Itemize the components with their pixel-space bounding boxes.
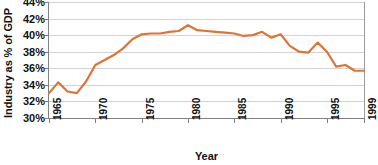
x-axis-tick-label: 1965	[52, 98, 63, 120]
x-axis-tick-label: 1975	[145, 98, 156, 120]
x-axis-title: Year	[48, 150, 365, 162]
x-axis-tick-labels: 19651970197519801985199019951999	[48, 120, 365, 150]
y-axis-tick-label: 34%	[23, 79, 45, 91]
y-axis-tick-label: 44%	[23, 0, 45, 8]
series-line-industry-pct-gdp	[49, 2, 364, 118]
x-axis-tick-label: 1999	[367, 98, 378, 120]
x-axis-tick-label: 1970	[98, 98, 109, 120]
y-axis-title-label: Industry as % of GDP	[2, 8, 14, 118]
x-axis-title-label: Year	[195, 150, 218, 162]
y-axis-tick-labels: 44%42%40%38%36%34%32%30%	[14, 0, 47, 125]
x-axis-tick-label: 1995	[330, 98, 341, 120]
y-axis-tick-label: 30%	[23, 112, 45, 124]
y-axis-tick-label: 36%	[23, 62, 45, 74]
series-polyline	[49, 25, 364, 93]
plot-area	[48, 2, 365, 119]
y-axis-tick-label: 38%	[23, 46, 45, 58]
x-axis-tick-label: 1980	[191, 98, 202, 120]
y-axis-tick-label: 32%	[23, 95, 45, 107]
x-axis-tick-label: 1990	[284, 98, 295, 120]
y-axis-tick-label: 40%	[23, 29, 45, 41]
x-axis-tick-label: 1985	[237, 98, 248, 120]
y-axis-tick-label: 42%	[23, 13, 45, 25]
